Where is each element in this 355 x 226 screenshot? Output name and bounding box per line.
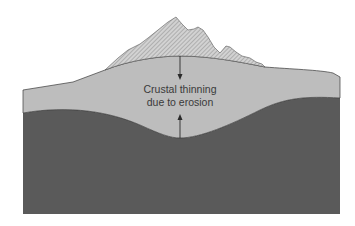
label-line-2: due to erosion — [130, 96, 230, 109]
label-line-1: Crustal thinning — [130, 83, 230, 96]
crustal-thinning-diagram — [0, 0, 355, 226]
crustal-thinning-label: Crustal thinning due to erosion — [130, 83, 230, 109]
